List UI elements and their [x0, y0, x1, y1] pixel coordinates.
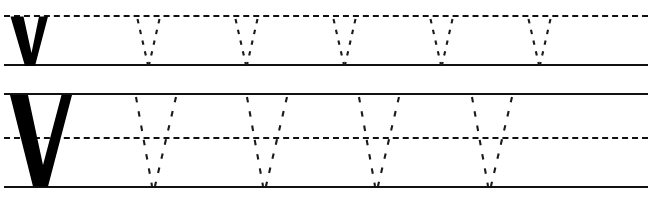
model-letters-layer	[0, 0, 660, 203]
trace-letter-row2	[136, 97, 512, 186]
handwriting-worksheet	[0, 0, 660, 203]
midline-row2	[4, 137, 648, 139]
model-letter-lowercase-v	[11, 17, 49, 67]
baseline-row2	[4, 186, 648, 188]
trace-letter-row1	[138, 19, 551, 65]
cap-height-line-row2	[4, 93, 648, 95]
x-height-line-row1	[4, 15, 648, 17]
trace-letters-layer	[0, 0, 660, 203]
model-letter-uppercase-v	[10, 95, 72, 187]
baseline-row1	[4, 64, 648, 66]
